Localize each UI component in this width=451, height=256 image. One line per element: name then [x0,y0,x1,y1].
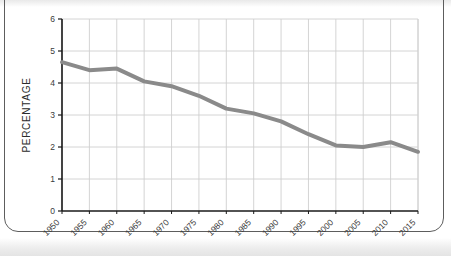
y-tick-label: 0 [50,206,55,216]
y-tick-label: 6 [50,14,55,24]
x-tick-label: 1990 [260,217,281,238]
chart-page: 0123456 19501955196019651970197519801985… [0,0,451,256]
x-tick-label: 1980 [205,217,226,238]
x-tick-label: 1960 [96,217,117,238]
x-tick-label: 2010 [370,217,391,238]
y-axis-ticks: 0123456 [50,14,62,216]
x-tick-label: 1970 [151,217,172,238]
x-tick-label: 1995 [287,217,308,238]
y-tick-label: 1 [50,174,55,184]
x-tick-label: 1950 [41,217,62,238]
y-tick-label: 2 [50,142,55,152]
x-tick-label: 1955 [68,217,89,238]
y-axis-title: PERCENTAGE [21,77,32,152]
x-tick-label: 2015 [397,217,418,238]
y-tick-label: 3 [50,110,55,120]
y-tick-label: 4 [50,78,55,88]
chart-svg: 0123456 19501955196019651970197519801985… [0,0,451,256]
horizontal-gridlines [62,19,418,179]
data-series-line [62,62,418,152]
x-tick-label: 2000 [315,217,336,238]
x-tick-label: 1965 [123,217,144,238]
x-tick-label: 2005 [342,217,363,238]
x-axis-ticks: 1950195519601965197019751980198519901995… [41,211,418,238]
line-chart: 0123456 19501955196019651970197519801985… [0,0,451,256]
x-tick-label: 1985 [233,217,254,238]
y-tick-label: 5 [50,46,55,56]
x-tick-label: 1975 [178,217,199,238]
